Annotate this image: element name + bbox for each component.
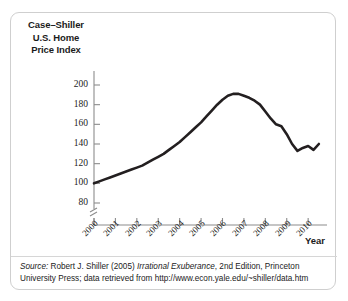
data-series-line — [94, 94, 319, 183]
source-book-title: Irrational Exuberance — [137, 262, 215, 271]
source-note: Source: Robert J. Shiller (2005) Irratio… — [11, 256, 337, 284]
source-note-line-1: Source: Robert J. Shiller (2005) Irratio… — [20, 261, 329, 273]
source-text-before-title: Robert J. Shiller (2005) — [48, 262, 137, 271]
source-text-after-title: , 2nd Edition, Princeton — [215, 262, 300, 271]
chart-axes — [94, 71, 327, 225]
y-axis-tick-label: 160 — [56, 118, 88, 128]
x-axis-title: Year — [305, 235, 325, 246]
y-axis-break-icon — [90, 208, 97, 216]
chart-plot-area: Case–Shiller U.S. Home Price Index 20018… — [11, 13, 337, 255]
chart-svg — [11, 13, 337, 255]
y-axis-tick-label: 140 — [56, 138, 88, 148]
y-axis-tick-label: 100 — [56, 177, 88, 187]
source-label: Source: — [20, 262, 48, 271]
chart-tick-marks — [94, 85, 308, 225]
source-note-line-2: University Press; data retrieved from ht… — [20, 273, 329, 285]
y-axis-tick-label: 80 — [56, 197, 88, 207]
y-axis-tick-label: 120 — [56, 158, 88, 168]
figure-container: Case–Shiller U.S. Home Price Index 20018… — [10, 12, 336, 290]
y-axis-tick-label: 200 — [56, 79, 88, 89]
y-axis-tick-label: 180 — [56, 99, 88, 109]
